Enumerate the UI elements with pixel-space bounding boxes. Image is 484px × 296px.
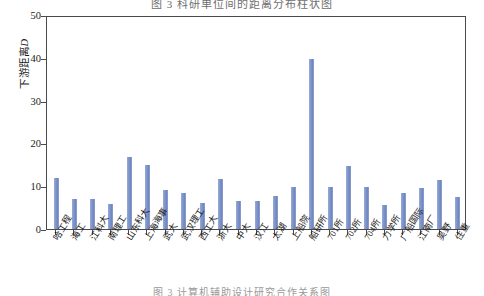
y-axis-tick-mark	[41, 59, 46, 60]
y-axis-tick-label: 40	[31, 54, 42, 65]
bar	[54, 178, 59, 229]
figure-bottom-caption: 图 3 计算机辅助设计研究合作关系图	[0, 284, 484, 296]
y-axis-tick-label: 50	[31, 11, 42, 22]
bar	[328, 187, 333, 229]
y-axis-tick-label: 20	[31, 139, 42, 150]
y-axis-tick-label: 30	[31, 96, 42, 107]
y-axis: 下游距离D	[0, 0, 46, 246]
y-axis-tick-mark	[41, 144, 46, 145]
plot-area	[46, 16, 466, 230]
y-axis-tick-label: 10	[31, 182, 42, 193]
figure-top-title: 图 3 科研单位间的距离分布柱状图	[0, 0, 484, 9]
y-axis-tick-mark	[41, 230, 46, 231]
bar	[309, 59, 314, 229]
bar	[437, 180, 442, 229]
y-axis-title: 下游距离D	[16, 0, 31, 129]
y-axis-tick-mark	[41, 16, 46, 17]
bars-container	[47, 17, 465, 229]
bar	[364, 187, 369, 229]
bar	[218, 179, 223, 229]
y-axis-tick-mark	[41, 187, 46, 188]
bar	[291, 187, 296, 229]
y-axis-tick-mark	[41, 102, 46, 103]
bar	[346, 166, 351, 229]
